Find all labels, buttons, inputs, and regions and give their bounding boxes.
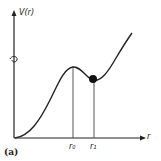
potential-plot (0, 0, 161, 161)
panel-label: (a) (4, 147, 18, 157)
tick-label-r1: r₁ (90, 142, 97, 151)
y-axis-arrow-icon (12, 10, 17, 16)
x-axis-label: r (147, 132, 150, 141)
x-axis-arrow-icon (140, 136, 146, 141)
tick-label-r0: r₀ (69, 142, 76, 151)
ball-marker (89, 75, 97, 83)
y-axis-label: V(r) (19, 8, 34, 17)
potential-curve (15, 33, 132, 138)
